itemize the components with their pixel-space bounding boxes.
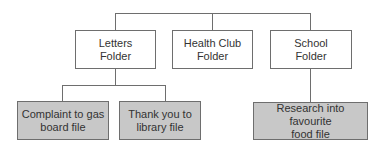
connector-school xyxy=(310,13,311,30)
folder-label: Folder xyxy=(294,50,328,63)
connector-letters xyxy=(115,13,116,30)
connector-thankyou xyxy=(165,85,166,101)
file-label: board file xyxy=(22,121,105,134)
connector-health-club xyxy=(212,13,213,30)
file-label: Research into favourite xyxy=(254,102,367,128)
folder-label: Health Club xyxy=(184,37,241,50)
complaint-file: Complaint to gasboard file xyxy=(17,101,109,140)
folder-label: Folder xyxy=(99,50,133,63)
connector-letters-down xyxy=(115,68,116,85)
file-label: food file xyxy=(254,128,367,141)
research-file: Research into favouritefood file xyxy=(253,102,368,140)
folder-label: Letters xyxy=(99,37,133,50)
connector-school-down xyxy=(310,68,311,102)
connector-letters-branch xyxy=(62,85,166,86)
school-folder: SchoolFolder xyxy=(270,30,352,69)
folder-label: School xyxy=(294,37,328,50)
file-label: Complaint to gas xyxy=(22,108,105,121)
folder-label: Folder xyxy=(184,50,241,63)
health-club-folder: Health ClubFolder xyxy=(172,30,253,69)
thank-you-file: Thank you tolibrary file xyxy=(119,101,201,140)
file-label: Thank you to xyxy=(128,108,192,121)
file-label: library file xyxy=(128,121,192,134)
root-connector xyxy=(115,13,311,14)
letters-folder: LettersFolder xyxy=(75,30,156,69)
connector-complaint xyxy=(62,85,63,101)
